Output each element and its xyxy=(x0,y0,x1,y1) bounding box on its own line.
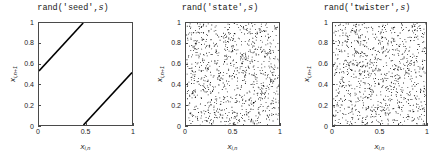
x-axis-tick xyxy=(427,123,428,126)
x-axis-tick-label: 0 xyxy=(25,128,51,135)
y-axis-subscript: i,n+1 xyxy=(12,66,18,78)
scatter-points xyxy=(186,23,279,125)
y-axis-tick xyxy=(38,126,41,127)
x-axis-tick xyxy=(380,123,381,126)
y-axis-tick xyxy=(38,43,41,44)
x-axis-tick xyxy=(133,123,134,126)
y-axis-variable: x xyxy=(8,78,17,82)
y-axis-tick xyxy=(185,84,188,85)
x-axis-title: xi,n xyxy=(185,142,280,153)
plot-scatter xyxy=(333,23,426,125)
panel-rand-state: rand('state',s) 00.20.40.60.8100.51 xi,n… xyxy=(147,0,293,163)
y-axis-title-wrap: xi,n+1 xyxy=(12,0,26,163)
panel-title-prefix: rand('twister', xyxy=(324,3,401,13)
y-axis-tick xyxy=(332,43,335,44)
x-axis-tick-label: 1 xyxy=(267,128,293,135)
y-axis-tick xyxy=(185,22,188,23)
y-axis-tick xyxy=(38,105,41,106)
figure-random-generator-comparison: rand('seed',s) 00.20.40.60.8100.51 xi,n … xyxy=(0,0,440,163)
plot-area xyxy=(185,22,280,126)
scatter-points xyxy=(333,23,426,125)
y-axis-title-wrap: xi,n+1 xyxy=(306,0,320,163)
panel-title-suffix: ) xyxy=(405,3,410,13)
x-axis-subscript: i,n xyxy=(85,145,91,151)
plot-lines xyxy=(39,23,132,125)
x-axis-tick-label: 0 xyxy=(172,128,198,135)
x-axis-tick-label: 0 xyxy=(319,128,345,135)
y-axis-tick xyxy=(332,64,335,65)
x-axis-title: xi,n xyxy=(332,142,427,153)
panel-rand-twister: rand('twister',s) 00.20.40.60.8100.51 xi… xyxy=(294,0,440,163)
x-axis-title: xi,n xyxy=(38,142,133,153)
y-axis-subscript: i,n+1 xyxy=(159,66,165,78)
plot-area xyxy=(38,22,133,126)
x-axis-subscript: i,n xyxy=(379,145,385,151)
y-axis-tick xyxy=(332,84,335,85)
y-axis-tick xyxy=(185,105,188,106)
data-line xyxy=(39,23,83,71)
panel-title-suffix: ) xyxy=(104,3,109,13)
y-axis-tick xyxy=(332,22,335,23)
x-axis-tick xyxy=(185,123,186,126)
x-axis-subscript: i,n xyxy=(232,145,238,151)
x-axis-tick-label: 0.5 xyxy=(220,128,246,135)
plot-area xyxy=(332,22,427,126)
panel-rand-seed: rand('seed',s) 00.20.40.60.8100.51 xi,n … xyxy=(0,0,146,163)
x-axis-tick-label: 0.5 xyxy=(367,128,393,135)
y-axis-tick xyxy=(332,126,335,127)
x-axis-tick xyxy=(332,123,333,126)
y-axis-title: xi,n+1 xyxy=(302,66,313,82)
y-axis-tick xyxy=(332,105,335,106)
x-axis-tick-label: 0.5 xyxy=(73,128,99,135)
y-axis-title-wrap: xi,n+1 xyxy=(159,0,173,163)
y-axis-tick xyxy=(38,84,41,85)
x-axis-tick xyxy=(38,123,39,126)
y-axis-title: xi,n+1 xyxy=(8,66,19,82)
plot-scatter xyxy=(186,23,279,125)
x-axis-tick xyxy=(280,123,281,126)
panel-title-suffix: ) xyxy=(253,3,258,13)
x-axis-tick xyxy=(233,123,234,126)
y-axis-tick xyxy=(185,126,188,127)
x-axis-tick-label: 1 xyxy=(120,128,146,135)
y-axis-subscript: i,n+1 xyxy=(306,66,312,78)
x-axis-tick xyxy=(86,123,87,126)
data-line xyxy=(83,72,132,125)
x-axis-tick-label: 1 xyxy=(414,128,440,135)
y-axis-tick xyxy=(185,43,188,44)
y-axis-variable: x xyxy=(302,78,311,82)
y-axis-tick xyxy=(38,22,41,23)
y-axis-tick xyxy=(38,64,41,65)
panel-title-prefix: rand('state', xyxy=(182,3,248,13)
panel-title-prefix: rand('seed', xyxy=(37,3,98,13)
y-axis-variable: x xyxy=(155,78,164,82)
y-axis-title: xi,n+1 xyxy=(155,66,166,82)
y-axis-tick xyxy=(185,64,188,65)
